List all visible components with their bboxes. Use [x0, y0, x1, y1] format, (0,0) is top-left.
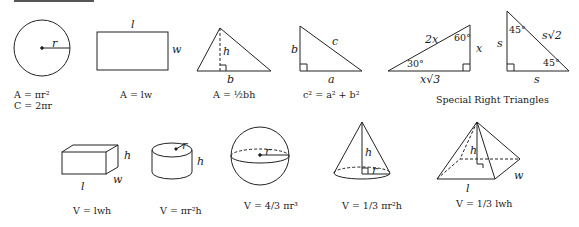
triangle-45-45-90-hyp-label: s√2: [542, 30, 562, 41]
box-width-label: w: [113, 174, 122, 185]
cone-volume-formula: V = 1/3 πr²h: [342, 201, 402, 212]
right-triangle-leg-a-label: a: [328, 74, 335, 85]
rectangle-figure: [97, 32, 168, 70]
triangle-30-60-90-hyp-label: 2x: [425, 34, 438, 45]
triangle-30-60-90-short-leg-label: x: [476, 43, 482, 54]
rectangle-width-label: w: [172, 44, 181, 55]
cylinder-height-label: h: [197, 156, 204, 167]
rectangle-area-formula: A = lw: [120, 90, 152, 101]
cone-radius-label: r: [372, 165, 377, 176]
right-triangle-leg-b-label: b: [291, 44, 298, 55]
triangle-30-60-90-long-leg-label: x√3: [420, 74, 440, 85]
pyramid-figure: [437, 122, 520, 179]
cylinder-radius-label: r: [182, 140, 187, 151]
angle-45-top-label: 45°: [509, 25, 526, 36]
sphere-figure: [231, 127, 289, 185]
cone-figure: [334, 122, 390, 179]
triangle-base-label: b: [227, 74, 234, 85]
special-right-triangles-caption: Special Right Triangles: [436, 94, 549, 105]
pyramid-height-label: h: [470, 145, 477, 156]
geometry-figures: [0, 0, 579, 227]
cone-height-label: h: [365, 147, 372, 158]
triangle-height-label: h: [223, 46, 230, 57]
pythagorean-formula: c² = a² + b²: [303, 90, 360, 101]
box-height-label: h: [124, 150, 131, 161]
box-length-label: l: [81, 181, 85, 192]
circle-circumference-formula: C = 2πr: [14, 101, 52, 112]
cylinder-volume-formula: V = πr²h: [160, 206, 202, 217]
sphere-radius-label: r: [265, 146, 270, 157]
pyramid-volume-formula: V = 1/3 lwh: [456, 199, 512, 210]
sphere-volume-formula: V = 4/3 πr³: [244, 201, 298, 212]
box-figure: [62, 145, 118, 174]
triangle-45-45-90-base-label: s: [534, 74, 540, 85]
circle-radius-label: r: [52, 38, 57, 49]
pyramid-width-label: w: [514, 170, 523, 181]
right-triangle-figure: [300, 26, 362, 71]
triangle-area-formula: A = ½bh: [213, 90, 255, 101]
triangle-figure: [197, 28, 271, 71]
circle-figure: [14, 20, 70, 76]
angle-30-label: 30°: [407, 59, 424, 70]
pyramid-length-label: l: [466, 183, 470, 194]
angle-45-right-label: 45°: [543, 58, 560, 69]
box-volume-formula: V = lwh: [73, 206, 111, 217]
angle-60-label: 60°: [454, 33, 471, 44]
triangle-45-45-90-vertical-leg-label: s: [497, 38, 503, 49]
right-triangle-hyp-label: c: [332, 36, 338, 47]
rectangle-length-label: l: [131, 19, 135, 30]
